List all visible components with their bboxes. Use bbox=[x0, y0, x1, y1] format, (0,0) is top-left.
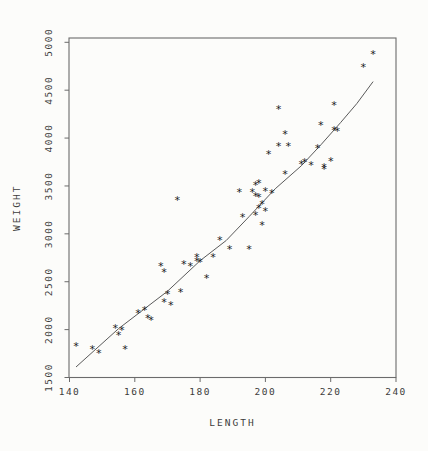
scatter-plot-page: 1401601802002202401500200025003000350040… bbox=[0, 0, 428, 451]
x-axis-tick-label: 160 bbox=[124, 386, 146, 397]
scatter-point: * bbox=[331, 99, 338, 112]
scatter-point: * bbox=[122, 343, 129, 356]
scatter-point: * bbox=[203, 272, 210, 285]
x-axis-tick-label: 180 bbox=[189, 386, 211, 397]
y-axis-tick-label: 1500 bbox=[43, 363, 54, 392]
scatter-point: * bbox=[360, 61, 367, 74]
scatter-point: * bbox=[318, 119, 325, 132]
y-axis-tick-label: 5000 bbox=[43, 28, 54, 57]
scatter-point: * bbox=[269, 187, 276, 200]
scatter-point: * bbox=[226, 243, 233, 256]
scatter-point: * bbox=[259, 219, 266, 232]
x-axis-tick-label: 200 bbox=[255, 386, 277, 397]
x-axis-tick-label: 240 bbox=[385, 386, 407, 397]
scatter-point: * bbox=[174, 194, 181, 207]
scatter-point: * bbox=[314, 142, 321, 155]
scatter-point: * bbox=[334, 125, 341, 138]
y-axis-tick-label: 2000 bbox=[43, 315, 54, 344]
y-axis-tick-label: 4500 bbox=[43, 76, 54, 105]
scatter-point: * bbox=[327, 155, 334, 168]
scatter-point: * bbox=[275, 103, 282, 116]
scatter-point: * bbox=[167, 299, 174, 312]
scatter-point: * bbox=[118, 324, 125, 337]
y-axis-title: WEIGHT bbox=[11, 185, 22, 231]
scatter-point: * bbox=[197, 256, 204, 269]
y-axis-tick-label: 4000 bbox=[43, 124, 54, 153]
x-axis-title: LENGTH bbox=[209, 417, 255, 428]
x-axis-tick-label: 220 bbox=[320, 386, 342, 397]
y-axis-tick-label: 2500 bbox=[43, 267, 54, 296]
scatter-point: * bbox=[246, 243, 253, 256]
scatter-point: * bbox=[275, 140, 282, 153]
scatter-point: * bbox=[216, 234, 223, 247]
scatter-point: * bbox=[73, 340, 80, 353]
scatter-point: * bbox=[161, 266, 168, 279]
scatter-point: * bbox=[96, 347, 103, 360]
scatter-point: * bbox=[282, 168, 289, 181]
scatter-point: * bbox=[262, 205, 269, 218]
x-axis-tick-label: 140 bbox=[59, 386, 81, 397]
y-axis-tick-label: 3500 bbox=[43, 172, 54, 201]
scatter-point: * bbox=[210, 251, 217, 264]
scatter-point: * bbox=[370, 48, 377, 61]
scatter-plot-canvas: 1401601802002202401500200025003000350040… bbox=[0, 0, 428, 451]
y-axis-tick-label: 3000 bbox=[43, 219, 54, 248]
scatter-point: * bbox=[265, 148, 272, 161]
scatter-point: * bbox=[148, 314, 155, 327]
scatter-point: * bbox=[177, 286, 184, 299]
scatter-point: * bbox=[282, 128, 289, 141]
scatter-point: * bbox=[236, 186, 243, 199]
scatter-point: * bbox=[308, 159, 315, 172]
scatter-point: * bbox=[239, 211, 246, 224]
scatter-point: * bbox=[285, 140, 292, 153]
